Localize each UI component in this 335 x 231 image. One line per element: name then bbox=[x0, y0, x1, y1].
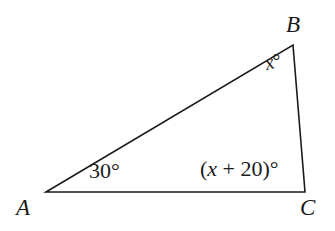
vertex-label-a: A bbox=[16, 196, 30, 219]
vertex-label-c: C bbox=[300, 196, 315, 219]
angle-label-c: (x + 20)° bbox=[200, 158, 279, 180]
angle-label-c-variable: x bbox=[207, 156, 217, 181]
triangle-figure: A B C 30° x° (x + 20)° bbox=[0, 0, 335, 231]
vertex-label-b: B bbox=[286, 13, 300, 36]
triangle-shape bbox=[0, 0, 335, 231]
angle-label-c-expression: + 20) bbox=[217, 156, 270, 181]
angle-label-a: 30° bbox=[89, 160, 120, 182]
angle-label-c-degree: ° bbox=[270, 156, 279, 181]
